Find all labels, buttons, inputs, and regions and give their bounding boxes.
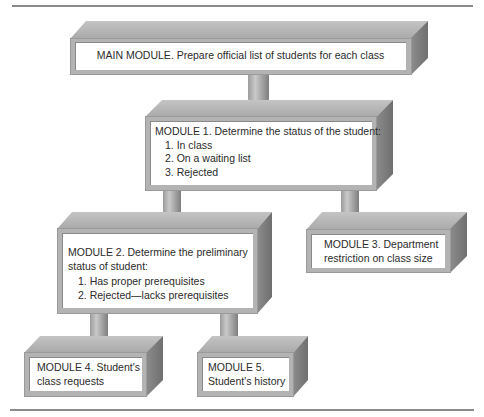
module3-title-line1: MODULE 3. Department	[324, 237, 438, 251]
module5-title-line2: Student's history	[208, 374, 285, 388]
module5-top-face	[197, 336, 308, 353]
module5-title-line1: MODULE 5.	[208, 360, 285, 374]
module3-text: MODULE 3. Department restriction on clas…	[324, 237, 438, 265]
module4-text: MODULE 4. Student's class requests	[37, 360, 140, 388]
main-module-top-face	[70, 21, 428, 39]
module2-item-2: 2. Rejected—lacks prerequisites	[68, 289, 248, 303]
module1-item-2: 2. On a waiting list	[155, 152, 381, 166]
module1-item-3: 3. Rejected	[155, 166, 381, 180]
module4-title-line2: class requests	[37, 374, 140, 388]
module4-top-face	[24, 336, 163, 353]
module2-side-face	[257, 212, 272, 314]
module1-top-face	[145, 100, 393, 117]
module2-top-face	[57, 212, 272, 229]
module5-text: MODULE 5. Student's history	[208, 360, 285, 388]
connector-main-module1	[248, 74, 269, 104]
module2-title-line2: status of student:	[68, 260, 248, 274]
module4-title-line1: MODULE 4. Student's	[37, 360, 140, 374]
module2-text: MODULE 2. Determine the preliminary stat…	[68, 246, 248, 302]
module3-top-face	[306, 212, 467, 230]
module3-title-line2: restriction on class size	[324, 251, 438, 265]
module2-title-line1: MODULE 2. Determine the preliminary	[68, 246, 248, 260]
main-module-title: MAIN MODULE. Prepare official list of st…	[75, 49, 406, 63]
top-rule	[12, 5, 473, 7]
module1-title: MODULE 1. Determine the status of the st…	[155, 125, 381, 139]
module1-text: MODULE 1. Determine the status of the st…	[155, 125, 381, 179]
module1-item-1: 1. In class	[155, 139, 381, 153]
module2-item-1: 1. Has proper prerequisites	[68, 275, 248, 289]
bottom-rule	[10, 409, 474, 411]
